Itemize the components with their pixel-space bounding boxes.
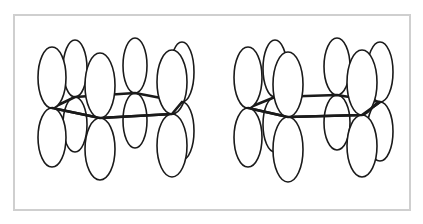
orbital-lobe-bottom bbox=[347, 115, 377, 177]
orbital-lobe-bottom bbox=[123, 93, 147, 148]
orbital-lobe-bottom bbox=[234, 108, 262, 167]
orbital-lobe-bottom bbox=[63, 97, 87, 152]
left-benzene-molecule bbox=[38, 38, 194, 180]
orbital-lobe-top bbox=[38, 47, 66, 108]
orbital-lobe-top bbox=[273, 52, 303, 117]
orbital-lobe-bottom bbox=[38, 108, 66, 167]
orbital-lobe-top bbox=[85, 53, 115, 118]
orbital-lobe-bottom bbox=[324, 95, 350, 150]
orbital-lobe-bottom bbox=[157, 114, 187, 177]
orbital-lobe-top bbox=[157, 50, 187, 114]
orbital-lobe-top bbox=[347, 50, 377, 115]
right-benzene-molecule bbox=[234, 38, 393, 182]
orbital-lobe-top bbox=[324, 38, 350, 95]
orbital-lobe-bottom bbox=[273, 117, 303, 182]
orbital-lobe-bottom bbox=[85, 118, 115, 180]
orbital-lobe-top bbox=[63, 40, 87, 97]
orbital-lobe-top bbox=[234, 47, 262, 108]
benzene-p-orbital-diagram bbox=[0, 0, 423, 224]
orbital-lobe-top bbox=[123, 38, 147, 93]
